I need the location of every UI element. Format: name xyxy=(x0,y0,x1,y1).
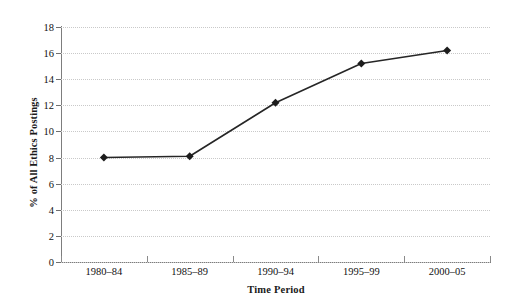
data-point-marker xyxy=(100,154,108,162)
data-point-marker xyxy=(443,47,451,55)
series-layer xyxy=(0,0,508,305)
x-axis-title: Time Period xyxy=(61,284,491,295)
line-chart: % of All Ethics Postings 024681012141618… xyxy=(0,0,508,305)
data-point-marker xyxy=(186,152,194,160)
data-point-marker xyxy=(272,99,280,107)
data-point-marker xyxy=(357,60,365,68)
